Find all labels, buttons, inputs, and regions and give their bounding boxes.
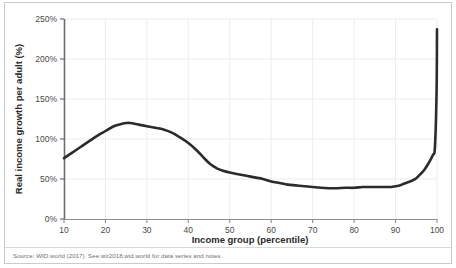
x-tick-label: 90 bbox=[391, 225, 401, 235]
y-tick-label: 250% bbox=[35, 14, 57, 24]
x-tick-label: 70 bbox=[308, 225, 318, 235]
y-axis-title: Real income growth per adult (%) bbox=[13, 44, 24, 194]
plot-area-background bbox=[64, 19, 437, 219]
y-axis-tick-marks bbox=[60, 19, 64, 219]
source-note: Source: WID.world (2017). See wir2018.wi… bbox=[13, 252, 222, 259]
x-tick-label: 80 bbox=[349, 225, 359, 235]
x-tick-label: 100 bbox=[430, 225, 444, 235]
x-tick-label: 10 bbox=[59, 225, 69, 235]
y-tick-label: 50% bbox=[40, 174, 57, 184]
y-tick-label: 100% bbox=[35, 134, 57, 144]
elephant-curve-figure: 0%50%100%150%200%250% 102030405060708090… bbox=[0, 0, 456, 268]
y-tick-label: 150% bbox=[35, 94, 57, 104]
y-tick-label: 0% bbox=[45, 214, 58, 224]
income-growth-line-chart: 0%50%100%150%200%250% 102030405060708090… bbox=[0, 0, 456, 268]
x-tick-label: 30 bbox=[142, 225, 152, 235]
x-tick-label: 20 bbox=[101, 225, 111, 235]
footer-divider bbox=[5, 247, 451, 248]
y-axis-tick-labels: 0%50%100%150%200%250% bbox=[35, 14, 57, 224]
y-tick-label: 200% bbox=[35, 54, 57, 64]
x-axis-title: Income group (percentile) bbox=[192, 234, 309, 245]
